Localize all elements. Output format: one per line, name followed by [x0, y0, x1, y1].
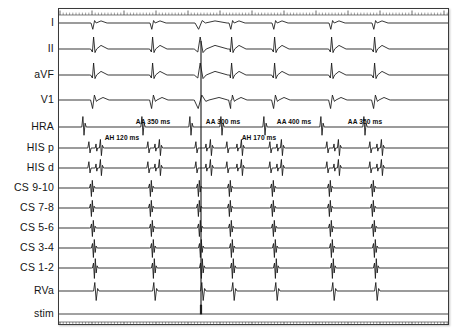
- channel-label-i: I: [51, 16, 54, 28]
- annotation-ah-1: AH 120 ms: [105, 134, 140, 141]
- channel-label-cs910: CS 9-10: [14, 181, 54, 193]
- annotation-aa-2: AA 300 ms: [206, 118, 240, 125]
- waveform-cs34: [59, 240, 448, 258]
- waveform-rva: [59, 283, 448, 301]
- annotation-aa-4: AA 350 ms: [348, 118, 382, 125]
- waveform-canvas: [59, 9, 448, 324]
- waveform-cs12: [59, 259, 448, 279]
- channel-label-stim: stim: [34, 307, 54, 319]
- annotation-ah-2: AH 170 ms: [242, 134, 277, 141]
- channel-label-cs12: CS 1-2: [20, 261, 54, 273]
- waveform-v1: [59, 95, 448, 109]
- channel-label-hisp: HIS p: [27, 141, 54, 153]
- waveform-cs56: [59, 220, 448, 236]
- channel-label-hra: HRA: [31, 120, 54, 132]
- waveform-cs910: [59, 180, 448, 196]
- channel-label-ii: II: [48, 42, 54, 54]
- trace-frame: AA 350 msAA 300 msAA 400 msAA 350 msAH 1…: [58, 8, 449, 325]
- annotation-aa-1: AA 350 ms: [136, 118, 170, 125]
- time-ruler: [59, 11, 448, 16]
- waveform-hisp: [59, 139, 448, 155]
- waveform-avf: [59, 63, 448, 79]
- channel-label-cs56: CS 5-6: [20, 221, 54, 233]
- channel-label-avf: aVF: [34, 68, 54, 80]
- annotation-aa-3: AA 400 ms: [277, 118, 311, 125]
- waveform-hisd: [59, 159, 448, 175]
- waveform-cs78: [59, 200, 448, 216]
- waveform-ii: [59, 37, 448, 53]
- channel-label-column: IIIaVFV1HRAHIS pHIS dCS 9-10CS 7-8CS 5-6…: [0, 0, 57, 331]
- waveform-hra: [59, 117, 448, 136]
- channel-label-v1: V1: [41, 93, 54, 105]
- channel-label-hisd: HIS d: [27, 161, 54, 173]
- ep-recording-screenshot: IIIaVFV1HRAHIS pHIS dCS 9-10CS 7-8CS 5-6…: [0, 0, 461, 331]
- time-ruler: [59, 322, 448, 324]
- waveform-i: [59, 21, 448, 30]
- channel-label-cs34: CS 3-4: [20, 241, 54, 253]
- channel-label-cs78: CS 7-8: [20, 201, 54, 213]
- channel-label-rva: RVa: [34, 284, 54, 296]
